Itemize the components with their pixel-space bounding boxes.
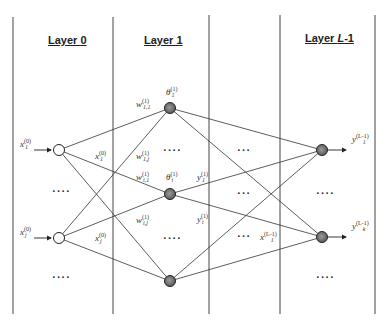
hidden-neuron-last [165,276,176,287]
ellipsis-hidden-top: ···· [163,145,182,156]
input-label-x1: x(0)1 [20,138,28,150]
ellipsis-input-bottom: ···· [52,272,71,283]
ellipsis-middle-bottom: ··· [237,231,251,242]
layer-last-suffix: -1 [344,32,354,44]
edge-label-x1: x(0)1 [95,150,103,162]
hidden-output-label-yi: y(1)i [197,213,204,225]
hidden-neurons [165,103,176,287]
weight-label-wij: w(1)i,j [136,214,148,226]
hidden-neuron-1 [165,103,176,114]
layer-1-label: Layer 1 [144,34,183,46]
output-label-yk: y(L-1)k [352,220,365,232]
ellipsis-hidden-bottom: ···· [163,233,182,244]
output-neuron-k [317,232,328,243]
ellipsis-input-mid: ···· [52,186,71,197]
edge-label-xj: x(0)j [95,232,102,244]
input-arrows [34,150,51,238]
layer-header-1: Layer 1 [144,34,183,46]
layer-header-0: Layer 0 [48,34,87,46]
hidden-neuron-i [165,189,176,200]
last-input-label-x1: x(L-1)1 [260,231,274,243]
ellipsis-middle-mid: ··· [237,188,251,199]
weight-label-wi1: w(1)i,1 [136,171,149,183]
output-label-y1: y(L-1)1 [352,133,366,145]
layer-0-label: Layer 0 [48,34,87,46]
threshold-label-1: θ(1)1 [166,86,174,98]
input-label-xj: x(0)j [20,226,27,238]
layer-dividers [13,15,375,314]
ellipsis-output-bottom: ···· [316,272,335,283]
output-neuron-1 [317,145,328,156]
connections-input-hidden [59,108,170,281]
layer-last-label: Layer [305,32,337,44]
threshold-label-i: θ(1)i [166,171,173,183]
layer-header-last: Layer L-1 [305,32,354,44]
ellipsis-output-mid: ···· [316,188,335,199]
input-node-1 [54,145,65,156]
hidden-output-label-y1: y(1)1 [197,171,205,183]
weight-label-w11: w(1)1,1 [136,98,151,110]
ellipsis-middle-top: ··· [237,145,251,156]
weight-label-w1j: w(1)1,j [136,150,149,162]
input-node-j [54,233,65,244]
